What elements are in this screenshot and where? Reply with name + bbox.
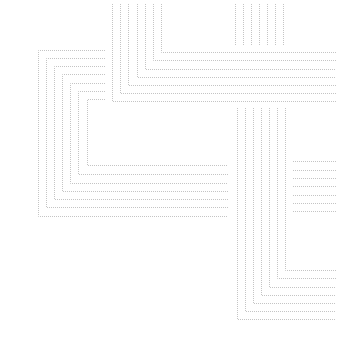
right-horizontal-stubs <box>293 162 336 212</box>
top-right-vertical-stubs <box>236 4 284 45</box>
art-line <box>254 108 337 304</box>
art-line <box>138 4 337 78</box>
art-line <box>270 108 337 288</box>
left-bracket-group <box>39 51 229 217</box>
art-line <box>154 4 337 61</box>
art-line <box>129 4 337 86</box>
art-line <box>55 67 229 200</box>
bottom-right-corner-group <box>238 108 337 320</box>
line-art-canvas <box>0 0 342 347</box>
top-left-corner-group <box>113 4 337 102</box>
art-line <box>79 92 229 175</box>
art-line <box>88 100 229 166</box>
line-art-svg <box>0 0 342 347</box>
art-line <box>71 84 229 184</box>
art-line <box>162 4 337 53</box>
art-line <box>246 108 337 312</box>
art-line <box>113 4 337 102</box>
art-line <box>278 108 337 279</box>
art-line <box>262 108 337 296</box>
art-line <box>146 4 337 70</box>
art-line <box>121 4 337 94</box>
art-line <box>47 59 229 208</box>
art-line <box>286 108 337 271</box>
